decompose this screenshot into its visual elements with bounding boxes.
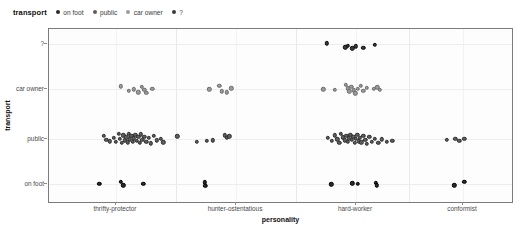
legend-item[interactable]: public [93,9,118,16]
data-point [330,139,334,143]
y-axis-ticks: ?car ownerpublicon foot [0,28,44,203]
data-point [203,184,207,188]
data-point [144,91,148,95]
data-point [195,140,199,144]
data-point [175,134,179,138]
data-point [337,141,341,145]
plot-panel [48,28,513,203]
y-axis-tick-label: public [4,134,44,141]
data-point [444,138,448,142]
y-axis-tick-mark [44,138,47,139]
x-axis-tick-mark [355,202,356,205]
data-point [227,134,231,138]
horizontal-gridline [49,89,512,90]
data-point [224,90,228,94]
x-axis-title: personality [48,216,513,223]
legend-item-label: ? [179,9,183,16]
legend-marker-icon [56,10,60,14]
vertical-gridline-minor [116,29,117,202]
data-point [217,84,221,88]
data-point [365,142,369,146]
data-point [114,140,118,144]
data-point [108,139,112,143]
data-point [384,140,388,144]
legend-title: transport [13,8,47,17]
data-point [161,140,165,144]
data-point [219,89,223,93]
data-point [354,44,358,48]
data-point [210,138,214,142]
horizontal-gridline [49,184,512,185]
data-point [452,183,456,187]
vertical-gridline [296,29,297,202]
data-point [207,87,211,91]
chart-root: transport on footpubliccar owner? transp… [0,0,528,235]
data-point [376,141,380,145]
data-point [121,183,125,187]
data-point [390,139,394,143]
data-point [150,86,154,90]
y-axis-tick-label: ? [4,39,44,46]
y-axis-tick-label: car owner [4,84,44,91]
data-point [462,137,466,141]
data-point [361,46,365,50]
vertical-gridline-minor [356,29,357,202]
x-axis-tick-mark [235,202,236,205]
x-axis-tick-label: thrifty-protector [94,205,137,212]
data-point [321,87,325,91]
vertical-gridline [409,29,410,202]
data-point [378,88,382,92]
data-point [356,182,360,186]
x-axis-tick-label: conformist [447,205,476,212]
data-point [127,88,131,92]
data-point [136,90,140,94]
vertical-gridline-minor [463,29,464,202]
plot-area [49,29,512,202]
x-axis-tick-mark [115,202,116,205]
legend-marker-icon [126,10,130,14]
legend-item-label: public [100,9,117,16]
legend-item[interactable]: ? [172,9,183,16]
y-axis-tick-mark [44,43,47,44]
data-point [141,182,145,186]
legend-marker-icon [93,10,97,14]
x-axis-tick-label: hunter-ostentatious [208,205,263,212]
horizontal-gridline [49,44,512,45]
legend-items: on footpubliccar owner? [56,9,192,16]
data-point [149,141,153,145]
y-axis-tick-label: on foot [4,179,44,186]
legend: transport on footpubliccar owner? [13,6,192,18]
data-point [205,139,209,143]
vertical-gridline-minor [236,29,237,202]
legend-item-label: on foot [63,9,83,16]
data-point [372,43,376,47]
x-axis-tick-mark [462,202,463,205]
legend-item-label: car owner [134,9,163,16]
x-axis-tick-label: hard-worker [338,205,372,212]
data-point [457,138,461,142]
data-point [97,182,101,186]
vertical-gridline [176,29,177,202]
y-axis-tick-mark [44,183,47,184]
legend-item[interactable]: on foot [56,9,84,16]
data-point [333,87,337,91]
data-point [329,182,333,186]
legend-item[interactable]: car owner [126,9,162,16]
legend-marker-icon [172,10,176,14]
data-point [375,183,379,187]
y-axis-tick-mark [44,88,47,89]
data-point [151,133,155,137]
data-point [119,84,123,88]
